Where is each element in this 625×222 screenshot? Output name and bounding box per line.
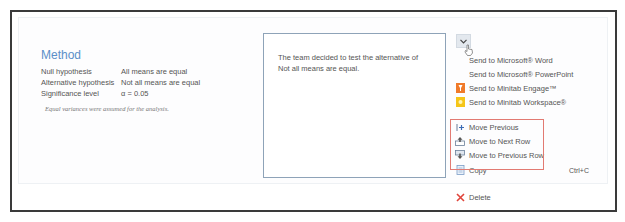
- method-label: Alternative hypothesis: [41, 77, 121, 88]
- menu-item-send-to-workspace[interactable]: Send to Minitab Workspace®: [455, 96, 625, 108]
- move-options-highlight-box: [450, 119, 544, 170]
- method-title: Method: [41, 48, 261, 62]
- menu-item-send-to-engage[interactable]: Send to Minitab Engage™: [455, 82, 625, 94]
- method-note: Equal variances were assumed for the ana…: [41, 105, 261, 112]
- minitab-engage-icon: [455, 83, 465, 93]
- menu-item-delete[interactable]: Delete: [455, 191, 625, 203]
- minitab-workspace-icon: [455, 97, 465, 107]
- copy-shortcut: Ctrl+C: [569, 167, 589, 174]
- output-panel: Method Null hypothesis All means are equ…: [18, 17, 608, 184]
- method-label: Significance level: [41, 88, 121, 99]
- method-value: α = 0.05: [121, 88, 148, 99]
- powerpoint-icon: [455, 69, 465, 79]
- menu-item-send-to-word[interactable]: Send to Microsoft® Word: [455, 54, 625, 66]
- word-icon: [455, 55, 465, 65]
- method-section: Method Null hypothesis All means are equ…: [41, 48, 261, 112]
- comment-box[interactable]: The team decided to test the alternative…: [263, 33, 446, 178]
- method-row: Null hypothesis All means are equal: [41, 66, 261, 77]
- delete-icon: [455, 192, 465, 202]
- method-value: Not all means are equal: [121, 77, 200, 88]
- method-value: All means are equal: [121, 66, 187, 77]
- method-row: Significance level α = 0.05: [41, 88, 261, 99]
- comment-text: The team decided to test the alternative…: [278, 52, 431, 74]
- menu-item-send-to-powerpoint[interactable]: Send to Microsoft® PowerPoint: [455, 68, 625, 80]
- method-row: Alternative hypothesis Not all means are…: [41, 77, 261, 88]
- output-frame: Method Null hypothesis All means are equ…: [10, 10, 617, 212]
- method-label: Null hypothesis: [41, 66, 121, 77]
